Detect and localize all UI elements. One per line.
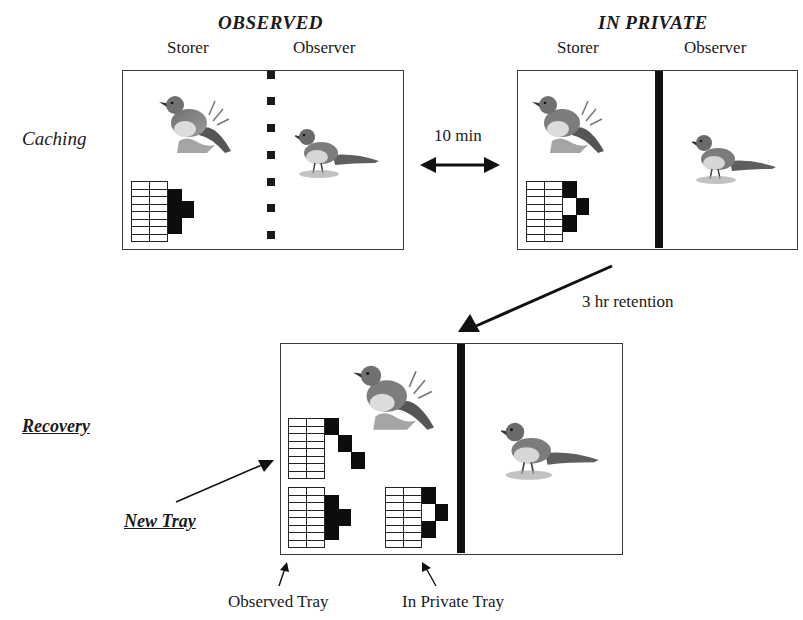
in-private-observer-label: Observer [684,38,746,58]
recovery-panel [280,343,623,555]
observed-tray-pointer-arrow-icon [276,562,290,588]
in-private-condition-title: IN PRIVATE [598,12,708,34]
observer-bird-icon [295,127,381,183]
new-tray-pointer-arrow-icon [172,458,276,506]
in-private-caching-panel [517,70,798,250]
observed-tray-label: Observed Tray [228,592,329,612]
in-private-tray-label: In Private Tray [402,592,504,612]
observer-bird-icon [692,133,778,189]
observed-tray [288,487,348,549]
in-private-tray [385,487,445,549]
observed-storer-label: Storer [167,38,209,58]
in-private-tray-pointer-arrow-icon [420,562,440,588]
in-private-storer-label: Storer [557,38,599,58]
observed-caching-panel [122,70,404,250]
solid-divider [457,344,465,553]
storer-bird-icon [532,91,612,155]
storer-bird-icon [159,91,239,155]
cache-tray-in-private [526,181,586,243]
double-arrow-icon [420,156,500,174]
new-tray-label: New Tray [124,511,196,532]
retention-label: 3 hr retention [582,292,674,312]
interval-label: 10 min [434,126,482,146]
cache-tray-observed [131,181,191,243]
observed-condition-title: OBSERVED [218,12,323,34]
solid-divider [655,71,663,248]
observer-bird-icon [501,420,601,486]
caching-phase-label: Caching [22,128,86,150]
recovery-phase-label: Recovery [22,416,90,437]
observed-observer-label: Observer [293,38,355,58]
new-tray [288,418,378,480]
